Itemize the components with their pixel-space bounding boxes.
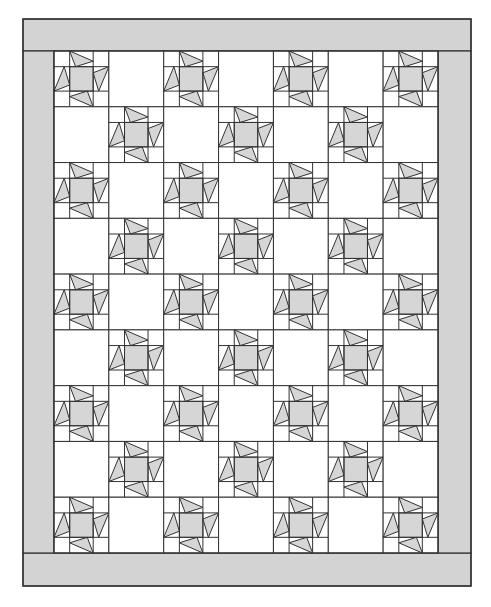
star-block: [164, 274, 219, 330]
star-center: [179, 290, 203, 314]
star-center: [289, 401, 313, 425]
star-center: [234, 346, 258, 370]
plain-block: [54, 107, 109, 163]
star-center: [289, 513, 313, 537]
right-border: [438, 51, 471, 553]
star-block: [109, 107, 164, 163]
block-square: [383, 441, 438, 497]
block-square: [328, 51, 383, 107]
star-block: [273, 497, 328, 553]
star-center: [234, 457, 258, 481]
plain-block: [219, 51, 274, 107]
star-center: [399, 67, 423, 91]
plain-block: [273, 218, 328, 274]
star-center: [125, 457, 149, 481]
star-center: [344, 234, 368, 258]
star-block: [383, 274, 438, 330]
block-square: [273, 330, 328, 386]
plain-block: [164, 330, 219, 386]
block-square: [219, 497, 274, 553]
star-block: [219, 218, 274, 274]
block-square: [219, 274, 274, 330]
star-center: [70, 513, 94, 537]
plain-block: [328, 386, 383, 442]
star-center: [344, 457, 368, 481]
plain-block: [328, 51, 383, 107]
block-square: [109, 51, 164, 107]
star-center: [344, 346, 368, 370]
plain-block: [328, 163, 383, 219]
block-square: [273, 441, 328, 497]
block-square: [164, 218, 219, 274]
quilt-blocks: [54, 51, 438, 553]
quilt-diagram: Star block quilt layout: [0, 0, 491, 607]
plain-block: [383, 107, 438, 163]
plain-block: [109, 51, 164, 107]
plain-block: [109, 274, 164, 330]
block-square: [109, 163, 164, 219]
plain-block: [219, 497, 274, 553]
star-center: [125, 122, 149, 146]
bottom-border: [23, 553, 471, 586]
star-block: [54, 274, 109, 330]
block-square: [164, 107, 219, 163]
star-block: [164, 51, 219, 107]
star-block: [109, 441, 164, 497]
star-block: [109, 330, 164, 386]
quilt-svg: [0, 0, 491, 607]
star-block: [328, 107, 383, 163]
star-center: [234, 122, 258, 146]
plain-block: [383, 218, 438, 274]
plain-block: [328, 274, 383, 330]
plain-block: [383, 441, 438, 497]
star-block: [54, 51, 109, 107]
star-block: [328, 330, 383, 386]
star-block: [273, 274, 328, 330]
star-block: [273, 163, 328, 219]
star-block: [383, 386, 438, 442]
top-border: [23, 19, 471, 51]
star-block: [383, 497, 438, 553]
block-square: [54, 441, 109, 497]
star-block: [164, 497, 219, 553]
plain-block: [219, 386, 274, 442]
plain-block: [164, 107, 219, 163]
plain-block: [109, 497, 164, 553]
star-block: [383, 163, 438, 219]
plain-block: [109, 163, 164, 219]
star-block: [54, 163, 109, 219]
star-center: [70, 290, 94, 314]
star-block: [328, 218, 383, 274]
block-square: [273, 218, 328, 274]
star-block: [273, 51, 328, 107]
star-center: [344, 122, 368, 146]
block-square: [328, 163, 383, 219]
star-center: [234, 234, 258, 258]
plain-block: [328, 497, 383, 553]
block-square: [54, 330, 109, 386]
star-block: [54, 497, 109, 553]
star-center: [399, 401, 423, 425]
star-block: [219, 330, 274, 386]
star-block: [164, 163, 219, 219]
block-square: [328, 497, 383, 553]
block-square: [328, 274, 383, 330]
star-block: [328, 441, 383, 497]
plain-block: [273, 441, 328, 497]
left-border: [23, 51, 54, 553]
plain-block: [219, 163, 274, 219]
plain-block: [383, 330, 438, 386]
block-square: [383, 218, 438, 274]
star-block: [273, 386, 328, 442]
star-center: [125, 346, 149, 370]
star-center: [289, 178, 313, 202]
block-square: [164, 330, 219, 386]
star-center: [399, 290, 423, 314]
star-center: [179, 513, 203, 537]
block-square: [109, 386, 164, 442]
star-center: [179, 401, 203, 425]
star-center: [179, 178, 203, 202]
star-center: [70, 67, 94, 91]
star-block: [219, 107, 274, 163]
plain-block: [54, 330, 109, 386]
